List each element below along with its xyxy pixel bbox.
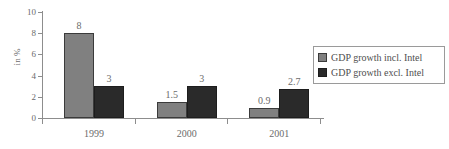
bar-value-label: 0.9 bbox=[244, 95, 284, 106]
legend-label: GDP growth excl. Intel bbox=[331, 67, 424, 78]
y-tick-label-wrap: 4 bbox=[0, 72, 36, 81]
bar-value-label: 1.5 bbox=[152, 89, 192, 100]
x-tick-label: 2001 bbox=[244, 128, 314, 139]
bar bbox=[94, 86, 124, 118]
x-tick-label: 2000 bbox=[152, 128, 222, 139]
y-tick-label: 2 bbox=[16, 93, 36, 102]
legend-item: GDP growth excl. Intel bbox=[318, 65, 440, 80]
bar bbox=[157, 102, 187, 118]
chart-legend: GDP growth incl. IntelGDP growth excl. I… bbox=[313, 46, 445, 84]
legend-item: GDP growth incl. Intel bbox=[318, 50, 440, 65]
bar-value-label: 3 bbox=[89, 73, 129, 84]
y-tick-label: 0 bbox=[16, 114, 36, 123]
bar-chart-figure: in % 0246810 199920002001 831.530.92.7 G… bbox=[0, 0, 449, 149]
x-tick-mark bbox=[227, 119, 228, 124]
y-tick-label-wrap: 6 bbox=[0, 50, 36, 59]
y-tick-label: 10 bbox=[16, 8, 36, 17]
legend-swatch-icon bbox=[318, 53, 327, 62]
y-tick-label-wrap: 2 bbox=[0, 93, 36, 102]
y-tick-label-wrap: 10 bbox=[0, 8, 36, 17]
x-tick-mark bbox=[135, 119, 136, 124]
y-tick-label-wrap: 0 bbox=[0, 114, 36, 123]
x-tick-label: 1999 bbox=[59, 128, 129, 139]
y-tick-label-wrap: 8 bbox=[0, 29, 36, 38]
bar-value-label: 2.7 bbox=[274, 76, 314, 87]
x-tick-mark bbox=[320, 119, 321, 124]
legend-swatch-icon bbox=[318, 68, 327, 77]
y-tick-label: 8 bbox=[16, 29, 36, 38]
legend-label: GDP growth incl. Intel bbox=[331, 52, 422, 63]
bar bbox=[249, 108, 279, 118]
bar-value-label: 3 bbox=[182, 73, 222, 84]
y-tick-label: 4 bbox=[16, 72, 36, 81]
bar-value-label: 8 bbox=[59, 20, 99, 31]
x-axis-line bbox=[42, 118, 324, 119]
x-tick-mark bbox=[42, 119, 43, 124]
y-tick-label: 6 bbox=[16, 50, 36, 59]
